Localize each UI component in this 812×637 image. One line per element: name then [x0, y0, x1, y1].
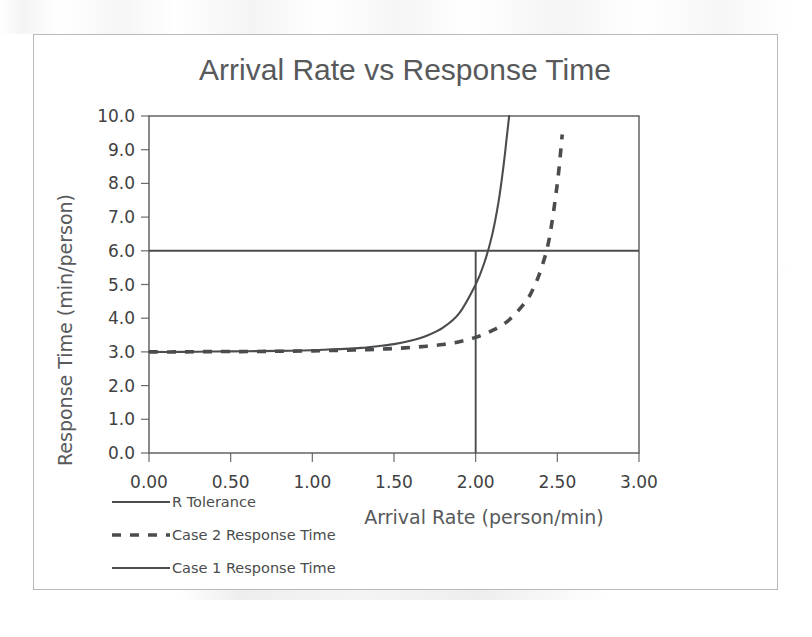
- x-tick-label: 1.50: [375, 472, 413, 492]
- x-axis-tick-marks: [149, 453, 639, 462]
- legend-item[interactable]: R Tolerance: [112, 494, 256, 510]
- y-tick-label: 5.0: [108, 275, 135, 295]
- y-axis-title: Response Time (min/person): [54, 194, 76, 466]
- x-tick-label: 0.00: [130, 472, 168, 492]
- x-tick-label: 1.00: [293, 472, 331, 492]
- figure-border: Arrival Rate vs Response Time Response T…: [33, 34, 778, 590]
- legend-label: Case 2 Response Time: [172, 527, 336, 543]
- plot-area-frame: [149, 116, 639, 453]
- y-axis-tick-marks: [141, 116, 149, 453]
- y-tick-label: 10.0: [97, 106, 135, 126]
- x-tick-label: 0.50: [212, 472, 250, 492]
- y-tick-label: 7.0: [108, 207, 135, 227]
- legend-item[interactable]: Case 1 Response Time: [112, 560, 336, 576]
- y-tick-label: 6.0: [108, 241, 135, 261]
- x-axis-title: Arrival Rate (person/min): [364, 506, 604, 528]
- y-tick-label: 9.0: [108, 140, 135, 160]
- x-tick-label: 2.00: [457, 472, 495, 492]
- scan-artifact-top-strip: [0, 0, 812, 34]
- y-tick-label: 1.0: [108, 409, 135, 429]
- series-case-1-response-time: [149, 116, 509, 352]
- y-tick-label: 3.0: [108, 342, 135, 362]
- legend-label: Case 1 Response Time: [172, 560, 336, 576]
- y-tick-label: 2.0: [108, 376, 135, 396]
- x-tick-label: 3.00: [620, 472, 658, 492]
- y-tick-label: 8.0: [108, 173, 135, 193]
- chart-canvas: Arrival Rate vs Response Time Response T…: [34, 35, 777, 589]
- legend-item[interactable]: Case 2 Response Time: [112, 527, 336, 543]
- chart-title: Arrival Rate vs Response Time: [199, 53, 611, 86]
- legend-label: R Tolerance: [172, 494, 256, 510]
- y-tick-label: 4.0: [108, 308, 135, 328]
- y-axis-tick-labels: 0.01.02.03.04.05.06.07.08.09.010.0: [97, 106, 135, 463]
- x-tick-label: 2.50: [538, 472, 576, 492]
- x-axis-tick-labels: 0.000.501.001.502.002.503.00: [130, 472, 658, 492]
- data-series-layer: [149, 116, 639, 453]
- series-case-2-response-time: [149, 135, 562, 352]
- chart-legend: R ToleranceCase 2 Response TimeCase 1 Re…: [112, 494, 336, 576]
- y-tick-label: 0.0: [108, 443, 135, 463]
